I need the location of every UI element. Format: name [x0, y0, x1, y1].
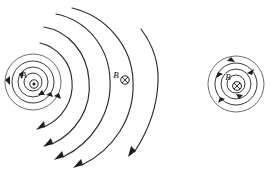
field-arc-2 — [43, 27, 89, 147]
arrowhead-icon-3 — [54, 151, 64, 160]
conductor-b-arrowhead-right — [247, 69, 254, 75]
field-arc-path-5 — [135, 29, 158, 151]
arrowhead-icon-4 — [73, 159, 83, 168]
conductor-a-group: A — [5, 54, 61, 110]
field-label-b-text: B — [113, 70, 119, 80]
conductor-b-arrowhead-upper-left — [216, 72, 223, 78]
conductor-b-arrowhead-top — [227, 57, 235, 62]
field-arc-group — [36, 8, 158, 168]
current-into-page-icon-field — [121, 76, 129, 84]
conductor-a-ring-4 — [5, 54, 61, 110]
arrowhead-icon-2 — [43, 138, 53, 147]
diagram-canvas: A B — [0, 0, 275, 172]
current-into-page-icon-b — [233, 82, 242, 91]
field-arc-1 — [36, 43, 72, 130]
current-out-of-page-icon — [30, 80, 38, 88]
conductor-b-group: B — [208, 56, 264, 112]
field-arc-path-1 — [40, 43, 72, 127]
arrowhead-icon-1 — [36, 121, 45, 130]
conductor-a-arrowhead-ring4 — [54, 93, 61, 99]
conductor-b-arrowhead-lower-left — [218, 97, 225, 103]
field-arc-4 — [72, 8, 133, 168]
field-arc-path-2 — [44, 27, 89, 144]
field-label-group: B — [113, 70, 129, 84]
conductor-a-label: A — [20, 70, 27, 80]
arrowhead-icon-5 — [128, 146, 136, 157]
field-arc-path-4 — [72, 8, 133, 165]
conductor-b-ring-4 — [208, 56, 264, 112]
physics-diagram-figure: A B — [0, 0, 275, 172]
conductor-b-label: B — [225, 72, 231, 82]
conductor-a-arrowhead-ring3 — [46, 92, 53, 97]
